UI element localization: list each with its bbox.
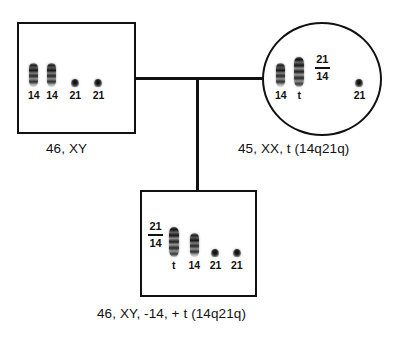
chromosome-label: t — [297, 90, 300, 101]
chromosome-label: 21 — [93, 90, 104, 101]
chromosome-label: 14 — [28, 90, 39, 101]
child-caption: 46, XY, -14, + t (14q21q) — [97, 306, 246, 321]
father-chromosome-2: 14 — [46, 63, 57, 101]
chromosome-glyph-icon — [355, 79, 363, 87]
chromosome-glyph-icon — [29, 63, 38, 87]
mother-karyotype: 14 t 21 14 21 — [275, 46, 375, 100]
child-chromosome-3: 21 — [210, 249, 221, 271]
child-chromosome-2: 14 — [189, 233, 200, 271]
child-karyotype: 21 14 t 14 21 21 — [148, 212, 253, 270]
chromosome-glyph-icon — [233, 249, 241, 257]
mother-caption: 45, XX, t (14q21q) — [238, 141, 349, 156]
father-chromosome-3: 21 — [70, 79, 81, 101]
father-caption: 46, XY — [46, 141, 87, 156]
pedigree-diagram: 14 14 21 21 46, XY 14 t 21 — [0, 0, 397, 341]
mother-chromosome-2-translocation: t — [294, 57, 304, 101]
chromosome-glyph-icon — [47, 63, 56, 87]
child-translocation-annotation: 21 14 — [148, 221, 163, 261]
chromosome-glyph-icon — [294, 57, 304, 87]
chromosome-label: t — [172, 260, 175, 271]
father-chromosome-4: 21 — [93, 79, 104, 101]
mother-translocation-annotation: 21 14 — [315, 54, 330, 92]
fraction-numerator: 21 — [316, 54, 328, 66]
chromosome-glyph-icon — [71, 79, 79, 87]
child-chromosome-4: 21 — [231, 249, 242, 271]
fraction-bar — [148, 234, 163, 236]
chromosome-label: 14 — [189, 260, 200, 271]
mother-chromosome-3: 21 — [354, 79, 365, 101]
fraction-numerator: 21 — [149, 221, 161, 233]
chromosome-label: 21 — [210, 260, 221, 271]
father-karyotype: 14 14 21 21 — [28, 52, 126, 100]
fraction-bar — [315, 67, 330, 69]
chromosome-label: 21 — [354, 90, 365, 101]
fraction-21-over-14: 21 14 — [148, 221, 163, 249]
chromosome-glyph-icon — [211, 249, 219, 257]
mating-line — [136, 77, 264, 80]
chromosome-label: 21 — [70, 90, 81, 101]
sibship-descent-line — [196, 77, 199, 191]
fraction-denominator: 14 — [316, 70, 328, 82]
chromosome-glyph-icon — [94, 79, 102, 87]
mother-chromosome-1: 14 — [275, 63, 286, 101]
chromosome-glyph-icon — [276, 63, 285, 87]
child-chromosome-1-translocation: t — [169, 227, 179, 271]
father-chromosome-1: 14 — [28, 63, 39, 101]
chromosome-label: 14 — [46, 90, 57, 101]
fraction-21-over-14: 21 14 — [315, 54, 330, 82]
chromosome-glyph-icon — [169, 227, 179, 257]
chromosome-glyph-icon — [190, 233, 199, 257]
chromosome-label: 14 — [275, 90, 286, 101]
chromosome-label: 21 — [231, 260, 242, 271]
fraction-denominator: 14 — [149, 237, 161, 249]
